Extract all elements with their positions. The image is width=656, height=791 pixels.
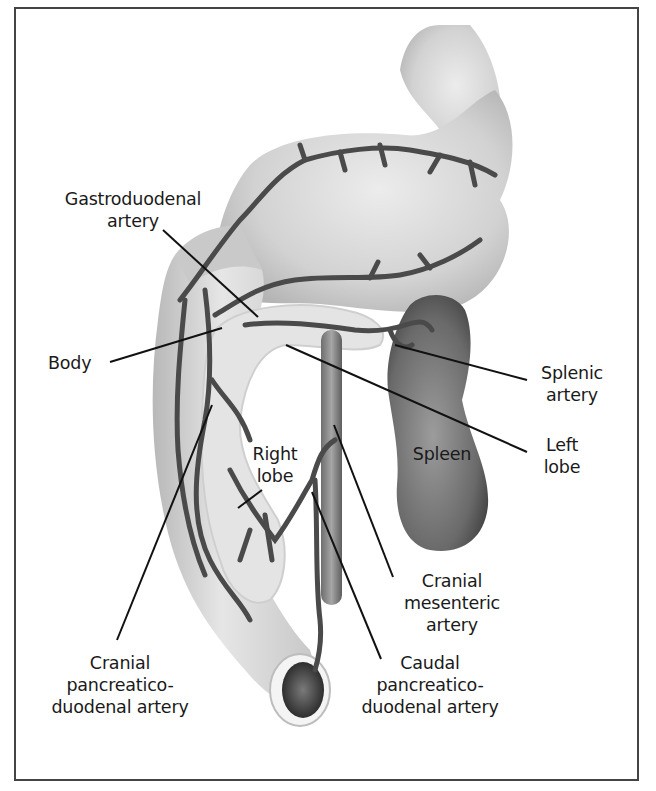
label-cranial-pancreaticoduodenal-artery: Cranial pancreatico- duodenal artery bbox=[40, 652, 200, 718]
label-caudal-pancreaticoduodenal-artery: Caudal pancreatico- duodenal artery bbox=[350, 652, 510, 718]
label-spleen: Spleen bbox=[402, 443, 482, 465]
label-right-lobe: Right lobe bbox=[240, 443, 310, 487]
duodenal-lumen bbox=[282, 662, 324, 718]
spleen bbox=[387, 295, 488, 551]
label-left-lobe: Left lobe bbox=[532, 434, 592, 478]
label-cranial-mesenteric-artery: Cranial mesenteric artery bbox=[392, 570, 512, 636]
label-body: Body bbox=[48, 352, 108, 374]
label-gastroduodenal-artery: Gastroduodenal artery bbox=[38, 188, 228, 232]
label-splenic-artery: Splenic artery bbox=[532, 362, 612, 406]
aorta bbox=[321, 330, 342, 605]
